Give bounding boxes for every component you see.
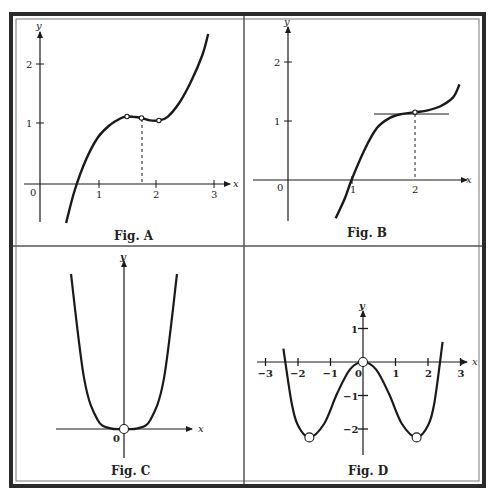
curve-a: [66, 34, 208, 223]
y-axis-label: y: [35, 20, 42, 31]
open-point-marker: [157, 118, 161, 122]
curve-b: [336, 84, 460, 218]
y-tick-label: 1: [274, 116, 280, 127]
origin-label: 0: [277, 182, 283, 193]
x-tick-label: 1: [393, 368, 400, 379]
panel-fig-c: y x 0 Fig. C: [56, 251, 204, 478]
caption-fig-a: Fig. A: [114, 229, 154, 243]
x-tick-label: 3: [211, 189, 217, 200]
x-tick-label: 2: [412, 184, 418, 195]
y-tick-label: 1: [26, 118, 32, 129]
x-tick-label: 3: [458, 368, 465, 379]
figure-grid: y x 0 1 2 3 1 2 Fig. A y x 0 1 2 1 2 Fig…: [0, 0, 494, 496]
open-point-marker: [125, 114, 129, 118]
y-tick-label: 2: [26, 59, 32, 70]
y-tick-label: −2: [343, 424, 358, 435]
y-tick-label: 1: [351, 324, 358, 335]
x-tick-label: 1: [96, 189, 102, 200]
x-tick-label: −2: [290, 368, 305, 379]
open-point-marker: [359, 358, 368, 367]
x-tick-label: 2: [153, 189, 159, 200]
y-axis-label: y: [283, 16, 290, 27]
panel-fig-b: y x 0 1 2 1 2 Fig. B: [253, 16, 472, 240]
caption-fig-b: Fig. B: [347, 226, 387, 240]
origin-label: 0: [30, 187, 36, 198]
x-axis-label: x: [472, 356, 478, 367]
caption-fig-c: Fig. C: [111, 464, 150, 478]
open-point-marker: [413, 110, 417, 114]
x-axis-label: x: [198, 423, 204, 434]
origin-label: 0: [113, 433, 120, 444]
open-point-marker: [139, 116, 143, 120]
frame: [11, 14, 484, 486]
open-point-marker: [120, 425, 129, 434]
y-axis-label: y: [119, 251, 127, 262]
x-tick-label: 2: [425, 368, 432, 379]
y-tick-label: 2: [274, 57, 280, 68]
x-tick-label: 1: [350, 184, 356, 195]
origin-label: 0: [355, 368, 362, 379]
x-axis-label: x: [466, 174, 472, 185]
caption-fig-d: Fig. D: [348, 464, 388, 478]
y-tick-label: −1: [343, 391, 358, 402]
panel-fig-a: y x 0 1 2 3 1 2 Fig. A: [24, 20, 239, 243]
panel-fig-d: y x 0 −3−2−11231−1−2 Fig. D: [257, 300, 478, 478]
x-tick-label: −3: [258, 368, 273, 379]
open-point-marker: [412, 433, 421, 442]
open-point-marker: [305, 433, 314, 442]
x-axis-label: x: [233, 178, 239, 189]
x-tick-label: −1: [323, 368, 338, 379]
y-axis-label: y: [358, 300, 366, 311]
